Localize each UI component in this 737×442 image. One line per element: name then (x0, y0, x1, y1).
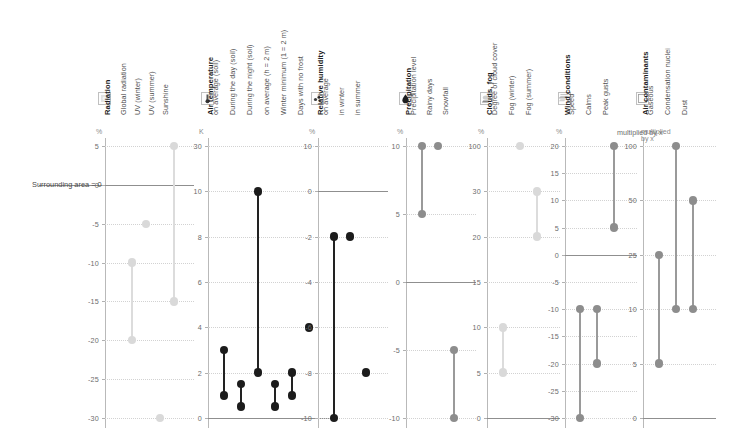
gridline (105, 379, 194, 380)
tick-label: 0 (174, 414, 202, 423)
tick-mark (315, 146, 318, 147)
data-point (346, 232, 355, 241)
tick-mark (640, 255, 643, 256)
tick-mark (562, 391, 565, 392)
tick-mark (484, 418, 487, 419)
tick-label: -2 (284, 233, 312, 242)
series-label: on average (321, 78, 330, 115)
tick-mark (403, 350, 406, 351)
tick-label: 15 (453, 278, 481, 287)
data-point (254, 187, 263, 196)
tick-mark (562, 173, 565, 174)
range-stem (131, 263, 132, 341)
tick-label: 4 (174, 323, 202, 332)
tick-mark (562, 255, 565, 256)
series-label: Precipitation level (409, 57, 418, 115)
tick-label: 0 (609, 414, 637, 423)
data-point (499, 323, 507, 331)
tick-label: 0 (284, 187, 312, 196)
tick-mark (205, 191, 208, 192)
tick-label: -20 (531, 360, 559, 369)
data-point (418, 142, 426, 150)
tick-mark (403, 282, 406, 283)
tick-mark (205, 418, 208, 419)
tick-mark (205, 282, 208, 283)
tick-label: 2 (174, 369, 202, 378)
data-point (330, 232, 339, 241)
series-label: UV (winter) (133, 78, 142, 115)
gridline (208, 146, 332, 147)
gridline (208, 327, 332, 328)
tick-mark (102, 418, 105, 419)
gridline (208, 237, 332, 238)
data-point (220, 391, 229, 400)
tick-mark (640, 364, 643, 365)
range-stem (613, 146, 614, 228)
range-stem (453, 350, 454, 418)
data-point (450, 346, 458, 354)
tick-label: 0 (372, 278, 400, 287)
series-label: Global radiation (119, 63, 128, 115)
series-label: Winter minimum (1 = 2 m) (279, 30, 288, 115)
series-label: During the night (soil) (245, 44, 254, 115)
tick-mark (315, 282, 318, 283)
tick-mark (562, 228, 565, 229)
data-point (418, 210, 426, 218)
tick-mark (102, 185, 105, 186)
tick-mark (562, 146, 565, 147)
series-label: Speed (567, 94, 576, 115)
tick-mark (315, 418, 318, 419)
tick-label: 5 (609, 360, 637, 369)
tick-label: -8 (284, 369, 312, 378)
series-label: During the day (soil) (228, 49, 237, 115)
tick-label: 100 (609, 142, 637, 151)
data-point (142, 220, 150, 228)
tick-label: -20 (71, 336, 99, 345)
tick-mark (403, 418, 406, 419)
data-point (672, 142, 680, 150)
tick-mark (403, 214, 406, 215)
range-stem (223, 350, 224, 395)
gridline (565, 228, 637, 229)
data-point (533, 232, 541, 240)
data-point (610, 223, 618, 231)
range-stem (596, 309, 597, 363)
tick-label: -10 (372, 414, 400, 423)
tick-mark (640, 200, 643, 201)
tick-mark (205, 327, 208, 328)
baseline-label: Surrounding area = 0 (32, 180, 102, 189)
data-point (271, 402, 280, 411)
tick-mark (640, 418, 643, 419)
series-label: Fog (summer) (524, 69, 533, 115)
range-stem (502, 327, 503, 372)
data-point (237, 402, 246, 411)
tick-label: -15 (71, 297, 99, 306)
data-point (254, 368, 263, 377)
gridline (318, 373, 388, 374)
tick-mark (640, 309, 643, 310)
series-label: on average (h = 2 m) (262, 46, 271, 115)
multiplied-by-label: multiplied by x (617, 128, 663, 137)
data-point (516, 142, 524, 150)
tick-label: -10 (71, 259, 99, 268)
series-label: Gaseous (646, 86, 655, 115)
tick-mark (102, 224, 105, 225)
range-stem (658, 255, 659, 364)
tick-label: 15 (531, 169, 559, 178)
range-stem (257, 191, 258, 372)
axis-unit-label: % (556, 128, 562, 135)
tick-label: 10 (453, 323, 481, 332)
data-point (330, 414, 339, 423)
tick-mark (205, 373, 208, 374)
range-stem (675, 146, 676, 309)
gridline (565, 336, 637, 337)
tick-mark (562, 282, 565, 283)
data-point (593, 359, 601, 367)
axis-unit-label: K (199, 128, 204, 135)
data-point (170, 297, 178, 305)
axis-spine (406, 138, 407, 428)
tick-label: 5 (453, 369, 481, 378)
tick-label: 10 (284, 142, 312, 151)
tick-mark (205, 146, 208, 147)
data-point (237, 380, 246, 389)
